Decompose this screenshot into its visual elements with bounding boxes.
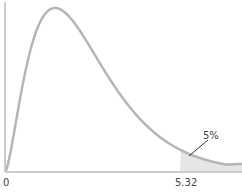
density-curve xyxy=(5,8,242,172)
annotation-pointer xyxy=(189,140,208,156)
x-tick-label-critical: 5.32 xyxy=(175,177,197,188)
annotation-label: 5% xyxy=(203,130,219,141)
x-tick-label-0: 0 xyxy=(3,177,9,188)
f-distribution-chart: 5% 0 5.32 xyxy=(0,0,242,195)
